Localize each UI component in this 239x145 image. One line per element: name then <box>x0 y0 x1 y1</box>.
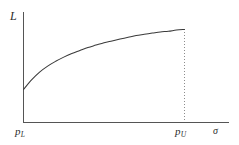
concave-increasing-curve <box>24 30 185 90</box>
x-axis-label-text: σ <box>213 125 218 136</box>
x-axis-label: σ <box>213 126 218 136</box>
plot-area <box>0 0 239 145</box>
x-tick-pl-base: p <box>15 125 21 137</box>
y-axis-label-text: L <box>10 9 17 23</box>
x-tick-label-pl: pL <box>15 126 25 137</box>
x-tick-pl-subscript: L <box>21 130 25 139</box>
x-tick-pu-subscript: U <box>181 130 186 139</box>
x-tick-label-pu: pU <box>175 126 186 137</box>
lending-curve-figure: L σ pL pU <box>0 0 239 145</box>
x-tick-pu-base: p <box>175 125 181 137</box>
y-axis-label: L <box>10 10 17 22</box>
